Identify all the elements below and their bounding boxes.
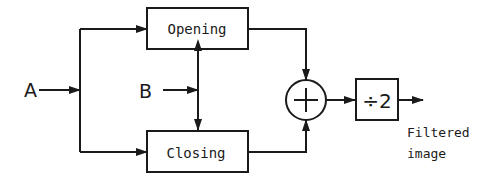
input-a-label: A bbox=[24, 79, 37, 101]
divide-label: ÷2 bbox=[362, 89, 391, 113]
closing-label: Closing bbox=[166, 145, 225, 161]
output-label-line2: image bbox=[407, 146, 446, 161]
output-label-line1: Filtered bbox=[407, 125, 470, 140]
opening-label: Opening bbox=[167, 21, 226, 37]
morphological-filter-diagram: A B Opening Closing ÷2 Filtered image bbox=[0, 0, 493, 187]
opening-to-sum-arrow bbox=[248, 29, 306, 80]
input-b-label: B bbox=[139, 80, 152, 102]
closing-to-sum-arrow bbox=[248, 120, 306, 152]
